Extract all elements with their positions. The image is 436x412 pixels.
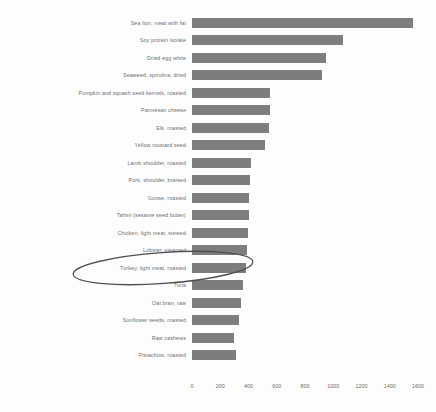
bar bbox=[192, 35, 343, 45]
x-axis-tick-label: 1200 bbox=[356, 382, 368, 390]
bar-row: Yellow mustard seed bbox=[0, 137, 436, 155]
bar-category-label: Raw cashews bbox=[0, 333, 186, 343]
bar-row: Lobster, steamed bbox=[0, 242, 436, 260]
bar-row: Tuna bbox=[0, 277, 436, 295]
bar-category-label: Lobster, steamed bbox=[0, 245, 186, 255]
bar-row: Oat bran, raw bbox=[0, 294, 436, 312]
bar bbox=[192, 298, 241, 308]
x-axis-tick-label: 0 bbox=[191, 382, 194, 390]
bar-row: Dried egg white bbox=[0, 49, 436, 67]
bar-row: Elk, roasted bbox=[0, 119, 436, 137]
bar-category-label: Soy protein isolate bbox=[0, 35, 186, 45]
bar-category-label: Turkey, light meat, roasted bbox=[0, 263, 186, 273]
bar bbox=[192, 350, 236, 360]
bar-row: Tahini (sesame seed butter) bbox=[0, 207, 436, 225]
bar bbox=[192, 228, 248, 238]
bar-category-label: Pork, shoulder, braised bbox=[0, 175, 186, 185]
bar-category-label: Sea lion, meat with fat bbox=[0, 18, 186, 28]
bar bbox=[192, 70, 322, 80]
bar bbox=[192, 280, 243, 290]
bar bbox=[192, 140, 265, 150]
x-axis-tick-label: 1400 bbox=[384, 382, 396, 390]
bar bbox=[192, 53, 326, 63]
bar-row: Sunflower seeds, roasted bbox=[0, 312, 436, 330]
bar-category-label: Goose, roasted bbox=[0, 193, 186, 203]
bar-category-label: Sunflower seeds, roasted bbox=[0, 315, 186, 325]
bar bbox=[192, 333, 234, 343]
x-axis: 02004006008001000120014001600 bbox=[0, 382, 436, 398]
bar-category-label: Pistachios, roasted bbox=[0, 350, 186, 360]
bar bbox=[192, 193, 249, 203]
bar bbox=[192, 158, 251, 168]
bar-row: Chicken, light meat, stewed bbox=[0, 224, 436, 242]
bar bbox=[192, 263, 246, 273]
bar-category-label: Oat bran, raw bbox=[0, 298, 186, 308]
bar-row: Pork, shoulder, braised bbox=[0, 172, 436, 190]
x-axis-tick-label: 1000 bbox=[327, 382, 339, 390]
bar-row: Soy protein isolate bbox=[0, 32, 436, 50]
bar bbox=[192, 210, 249, 220]
bar-row: Raw cashews bbox=[0, 329, 436, 347]
bar-category-label: Chicken, light meat, stewed bbox=[0, 228, 186, 238]
x-axis-tick-label: 200 bbox=[216, 382, 225, 390]
bar bbox=[192, 175, 250, 185]
bar-category-label: Pumpkin and squash seed kernels, roasted bbox=[0, 88, 186, 98]
bar-category-label: Parmesan cheese bbox=[0, 105, 186, 115]
x-axis-tick-label: 1600 bbox=[412, 382, 424, 390]
bar-row: Parmesan cheese bbox=[0, 102, 436, 120]
bar-row: Sea lion, meat with fat bbox=[0, 14, 436, 32]
bar-category-label: Seaweed, spirulina, dried bbox=[0, 70, 186, 80]
bar-category-label: Lamb shoulder, roasted bbox=[0, 158, 186, 168]
bar-row: Lamb shoulder, roasted bbox=[0, 154, 436, 172]
bar-row: Seaweed, spirulina, dried bbox=[0, 67, 436, 85]
bar-row: Pumpkin and squash seed kernels, roasted bbox=[0, 84, 436, 102]
bar-category-label: Dried egg white bbox=[0, 53, 186, 63]
bar-chart: Sea lion, meat with fatSoy protein isola… bbox=[0, 0, 436, 412]
bar bbox=[192, 105, 270, 115]
bar-row: Goose, roasted bbox=[0, 189, 436, 207]
bar-category-label: Yellow mustard seed bbox=[0, 140, 186, 150]
x-axis-tick-label: 400 bbox=[244, 382, 253, 390]
bar-category-label: Elk, roasted bbox=[0, 123, 186, 133]
bar bbox=[192, 123, 269, 133]
plot-area: Sea lion, meat with fatSoy protein isola… bbox=[0, 0, 436, 412]
bar-category-label: Tuna bbox=[0, 280, 186, 290]
bar bbox=[192, 245, 247, 255]
bar bbox=[192, 315, 239, 325]
bar bbox=[192, 88, 270, 98]
bar bbox=[192, 18, 413, 28]
bar-row: Turkey, light meat, roasted bbox=[0, 259, 436, 277]
bar-row: Pistachios, roasted bbox=[0, 347, 436, 365]
x-axis-tick-label: 800 bbox=[301, 382, 310, 390]
bar-category-label: Tahini (sesame seed butter) bbox=[0, 210, 186, 220]
x-axis-tick-label: 600 bbox=[272, 382, 281, 390]
